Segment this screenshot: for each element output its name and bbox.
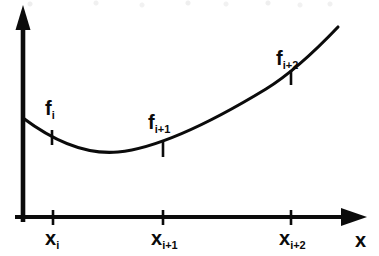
diagram-canvas [0, 0, 379, 256]
curve-path [23, 27, 338, 152]
function-curve [23, 27, 338, 152]
y-axis [16, 5, 31, 222]
figure-root: fi fi+1 fi+2 xi xi+1 xi+2 x [0, 0, 379, 256]
point-label-fi2: fi+2 [276, 48, 298, 68]
curve-point-ticks [52, 70, 291, 157]
point-label-fi1: fi+1 [148, 112, 170, 132]
x-axis [15, 208, 367, 226]
x-axis-arrowhead-icon [341, 208, 367, 226]
x-axis-name-label: x [355, 230, 366, 250]
point-label-fi2-base: f [276, 47, 283, 69]
tick-label-xi1: xi+1 [151, 228, 178, 248]
point-label-fi-subscript: i [52, 109, 55, 121]
tick-label-xi2-subscript: i+2 [290, 239, 306, 251]
point-label-fi-base: f [45, 97, 52, 119]
point-label-fi1-base: f [148, 111, 155, 133]
tick-label-xi-subscript: i [56, 239, 59, 251]
tick-label-xi2-base: x [279, 227, 290, 249]
tick-label-xi-base: x [45, 227, 56, 249]
point-label-fi: fi [45, 98, 55, 118]
point-label-fi2-subscript: i+2 [283, 59, 299, 71]
tick-label-xi1-subscript: i+1 [162, 239, 178, 251]
tick-label-xi1-base: x [151, 227, 162, 249]
tick-label-xi2: xi+2 [279, 228, 306, 248]
point-label-fi1-subscript: i+1 [155, 123, 171, 135]
y-axis-arrowhead-icon [16, 5, 31, 30]
tick-label-xi: xi [45, 228, 59, 248]
